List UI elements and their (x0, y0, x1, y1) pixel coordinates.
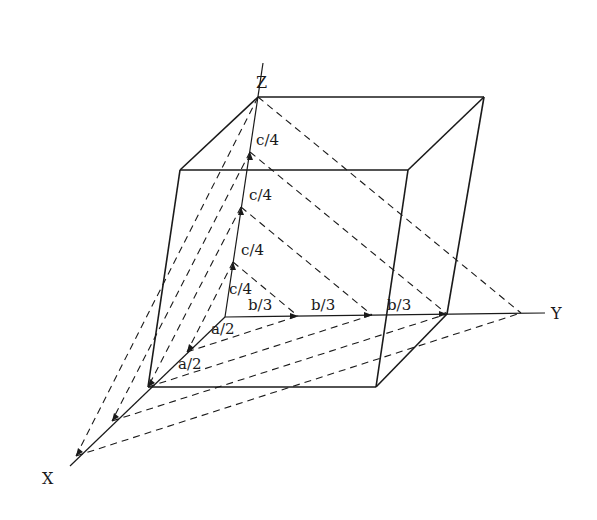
x-intercept-label-2: a/2 (178, 355, 202, 373)
y-axis-label: Y (550, 304, 562, 323)
y-axis (225, 313, 545, 317)
z-intercept-label-3: c/4 (249, 186, 272, 204)
x-intercept-label-1: a/2 (211, 320, 235, 338)
y-intercept-label-1: b/3 (248, 296, 272, 314)
z-intercept-label-4: c/4 (256, 131, 279, 149)
plane-traces (76, 97, 521, 456)
y-intercept-label-3: b/3 (387, 296, 411, 314)
x-axis-label: X (42, 469, 54, 488)
crystal-unit-cell-diagram: Z Y X c/4 c/4 c/4 c/4 b/3 b/3 b/3 a/2 a/… (0, 0, 597, 520)
axes (70, 63, 545, 466)
z-intercept-label-2: c/4 (241, 241, 264, 259)
z-axis-label: Z (256, 73, 267, 92)
y-intercept-label-2: b/3 (311, 296, 335, 314)
x-axis (70, 317, 225, 466)
unit-cell (148, 97, 484, 387)
